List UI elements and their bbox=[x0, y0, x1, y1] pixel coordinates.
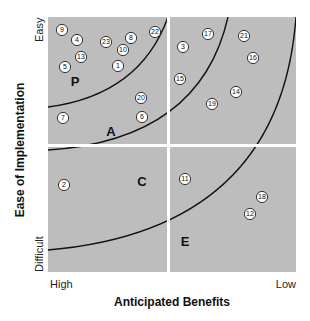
data-point: 14 bbox=[230, 86, 241, 97]
zone-label-p: P bbox=[71, 74, 80, 89]
point-label: 6 bbox=[140, 113, 144, 120]
point-label: 2 bbox=[62, 181, 66, 188]
point-label: 10 bbox=[119, 46, 127, 53]
data-point: 13 bbox=[75, 51, 86, 62]
point-label: 19 bbox=[208, 100, 216, 107]
point-label: 16 bbox=[249, 54, 257, 61]
data-point: 1 bbox=[112, 60, 123, 71]
data-point: 6 bbox=[136, 111, 147, 122]
point-label: 1 bbox=[116, 62, 120, 69]
x-axis-title: Anticipated Benefits bbox=[114, 295, 230, 309]
benefit-ease-matrix-chart: PACE 12345678910111213141516171819202122… bbox=[0, 0, 310, 321]
point-label: 13 bbox=[77, 53, 85, 60]
data-point: 3 bbox=[177, 41, 188, 52]
point-label: 20 bbox=[137, 94, 145, 101]
data-point: 7 bbox=[57, 112, 68, 123]
data-point: 8 bbox=[125, 32, 136, 43]
point-label: 4 bbox=[75, 36, 79, 43]
point-label: 12 bbox=[246, 210, 254, 217]
horizontal-divider bbox=[48, 144, 296, 147]
zone-label-c: C bbox=[137, 174, 147, 189]
data-point: 19 bbox=[206, 98, 217, 109]
data-point: 5 bbox=[59, 61, 70, 72]
point-label: 5 bbox=[63, 63, 67, 70]
point-label: 22 bbox=[151, 28, 159, 35]
data-point: 22 bbox=[149, 26, 160, 37]
point-label: 23 bbox=[102, 38, 110, 45]
data-point: 11 bbox=[179, 173, 190, 184]
zone-label-a: A bbox=[106, 124, 116, 139]
data-point: 17 bbox=[202, 28, 213, 39]
point-label: 11 bbox=[181, 175, 188, 182]
y-tick-difficult: Difficult bbox=[33, 236, 45, 272]
data-point: 20 bbox=[135, 92, 146, 103]
y-axis-title: Ease of Implementation bbox=[13, 83, 27, 218]
point-label: 8 bbox=[129, 34, 133, 41]
data-point: 18 bbox=[256, 191, 267, 202]
point-label: 15 bbox=[176, 75, 184, 82]
data-point: 12 bbox=[244, 208, 255, 219]
data-point: 9 bbox=[56, 24, 67, 35]
point-label: 21 bbox=[240, 32, 248, 39]
point-label: 7 bbox=[61, 114, 65, 121]
point-label: 18 bbox=[258, 193, 266, 200]
point-label: 17 bbox=[204, 30, 212, 37]
data-point: 2 bbox=[58, 179, 69, 190]
data-point: 10 bbox=[117, 44, 128, 55]
data-point: 15 bbox=[174, 73, 185, 84]
data-point: 4 bbox=[71, 34, 82, 45]
zone-label-e: E bbox=[181, 234, 190, 249]
point-label: 3 bbox=[181, 43, 185, 50]
data-point: 21 bbox=[238, 30, 249, 41]
point-label: 14 bbox=[232, 88, 240, 95]
x-tick-high: High bbox=[50, 278, 73, 290]
x-tick-low: Low bbox=[276, 278, 296, 290]
data-point: 16 bbox=[247, 52, 258, 63]
point-label: 9 bbox=[60, 26, 64, 33]
data-point: 23 bbox=[100, 36, 111, 47]
y-tick-easy: Easy bbox=[33, 17, 45, 42]
